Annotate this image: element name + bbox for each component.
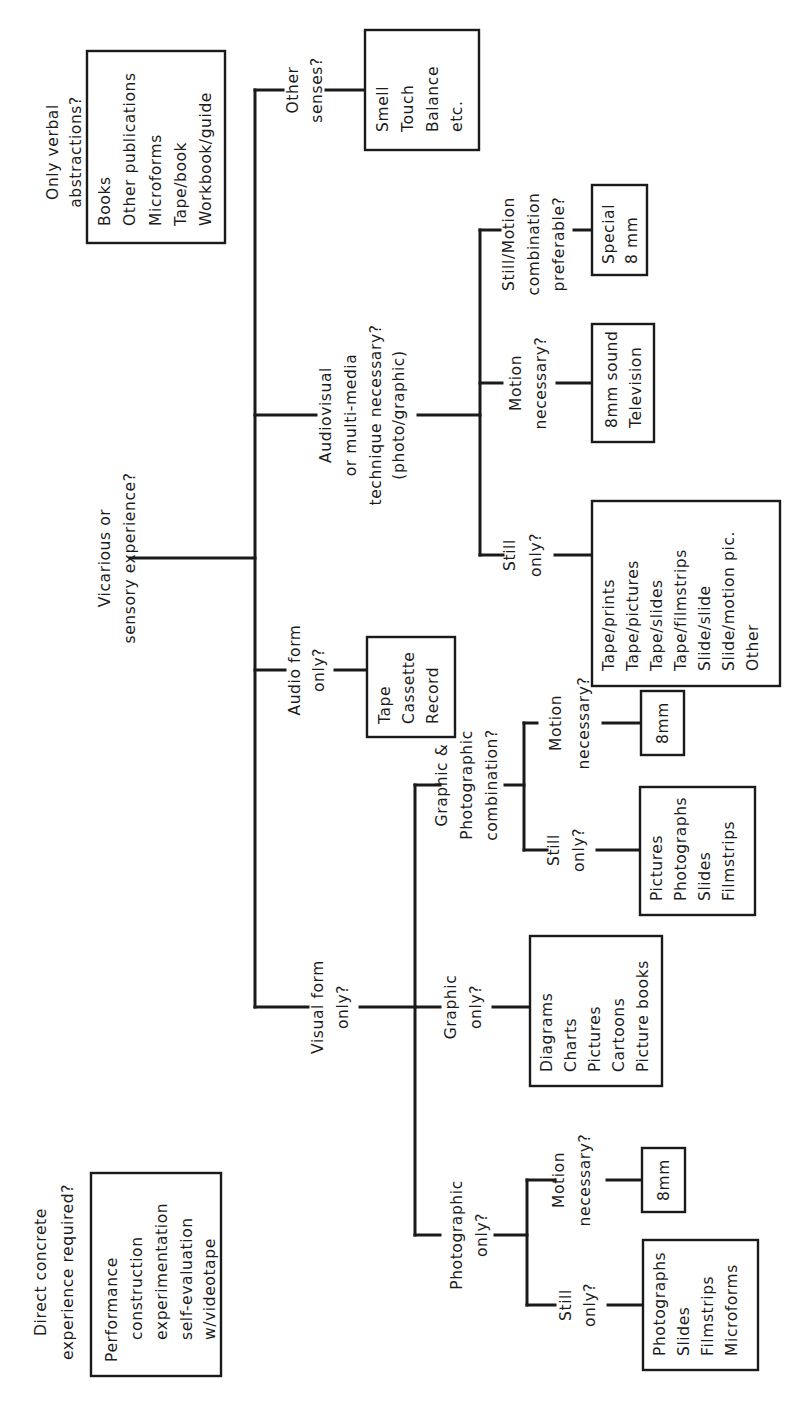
question-text-line: Still bbox=[545, 834, 563, 866]
question-text-line: abstractions? bbox=[67, 96, 85, 208]
box-item: Other bbox=[744, 624, 762, 671]
question-text-line: Photographic bbox=[448, 1180, 466, 1290]
question-text-line: Other bbox=[284, 66, 302, 113]
box-item: Cartoons bbox=[610, 998, 628, 1072]
box-item: etc. bbox=[448, 101, 466, 132]
question-text-line: Still/Motion bbox=[500, 197, 518, 291]
box-av-combo: Special 8 mm bbox=[592, 185, 647, 275]
question-text-line: Audiovisual bbox=[317, 367, 335, 463]
box-item: Smell bbox=[374, 86, 392, 132]
question-text-line: Visual form bbox=[309, 960, 327, 1054]
box-item: Performance bbox=[103, 1257, 121, 1362]
box-item: self-evaluation bbox=[178, 1217, 196, 1340]
question-text-line: (photo/graphic) bbox=[390, 350, 408, 479]
box-item: Cassette bbox=[400, 652, 418, 725]
box-item: Pictures bbox=[586, 1006, 604, 1072]
box-item: w/videotape bbox=[201, 1238, 219, 1340]
box-item: 8 mm bbox=[623, 217, 641, 264]
box-item: Photographs bbox=[651, 1252, 669, 1356]
question-text-line: necessary? bbox=[576, 1134, 594, 1227]
box-item: Books bbox=[96, 176, 114, 226]
question-photo-motion: Motion necessary? bbox=[550, 1134, 594, 1227]
question-text-line: combination? bbox=[483, 729, 501, 841]
question-text-line: only? bbox=[334, 985, 352, 1029]
question-text-line: Only verbal bbox=[44, 104, 62, 200]
box-item: Record bbox=[424, 667, 442, 724]
question-text-line: Photographic bbox=[458, 730, 476, 840]
box-item: Microforms bbox=[147, 134, 165, 226]
box-item: 8mm bbox=[655, 1159, 673, 1201]
box-item: experimentation bbox=[153, 1203, 171, 1340]
question-other-senses: Other senses? bbox=[284, 57, 326, 123]
question-text-line: Still bbox=[557, 1289, 575, 1321]
box-gp-still: Pictures Photographs Slides Filmstrips bbox=[640, 787, 755, 915]
question-direct-concrete: Direct concrete experience required? bbox=[32, 1184, 77, 1360]
question-text-line: senses? bbox=[308, 57, 326, 123]
box-item: Special bbox=[600, 204, 618, 264]
box-item: Touch bbox=[399, 85, 417, 134]
question-graphic-only: Graphic only? bbox=[442, 975, 485, 1040]
question-text-line: Audio form bbox=[286, 624, 304, 715]
box-item: Filmstrips bbox=[699, 1276, 717, 1356]
box-item: Slides bbox=[675, 1306, 693, 1356]
box-av-still: Tape/prints Tape/pictures Tape/slides Ta… bbox=[592, 501, 780, 686]
box-item: Slide/motion pic. bbox=[720, 531, 738, 671]
media-selection-flowchart: Direct concrete experience required? Per… bbox=[0, 0, 807, 1422]
box-item: Other publications bbox=[121, 72, 139, 226]
box-item: Slides bbox=[696, 851, 714, 901]
question-gp-motion: Motion necessary? bbox=[547, 677, 593, 770]
box-item: Filmstrips bbox=[720, 821, 738, 901]
box-photo-motion: 8mm bbox=[642, 1148, 685, 1212]
box-item: Diagrams bbox=[538, 993, 556, 1072]
box-item: Workbook/guide bbox=[197, 92, 215, 226]
question-text-line: experience required? bbox=[59, 1184, 77, 1360]
question-av-combo: Still/Motion combination preferable? bbox=[500, 193, 568, 296]
question-text-line: technique necessary? bbox=[367, 324, 385, 505]
question-gp-still: Still only? bbox=[545, 828, 588, 872]
box-direct-concrete: Performance construction experimentation… bbox=[91, 1173, 221, 1376]
question-graphic-photographic: Graphic & Photographic combination? bbox=[433, 729, 501, 841]
question-text-line: or multi-media bbox=[342, 354, 360, 477]
box-photo-still: Photographs Slides Filmstrips Microforms bbox=[643, 1240, 758, 1370]
box-verbal-abstractions: Books Other publications Microforms Tape… bbox=[87, 51, 225, 243]
box-audio-form: Tape Cassette Record bbox=[367, 637, 455, 737]
question-audio-form: Audio form only? bbox=[286, 624, 328, 715]
question-text-line: only? bbox=[581, 1283, 599, 1327]
box-gp-motion: 8mm bbox=[641, 691, 684, 755]
question-av-still: Still only? bbox=[501, 533, 545, 577]
question-text-line: Graphic & bbox=[433, 744, 451, 827]
question-text-line: Still bbox=[501, 539, 519, 571]
box-item: Tape/slides bbox=[648, 579, 666, 672]
question-text-line: necessary? bbox=[575, 677, 593, 770]
box-item: Charts bbox=[562, 1018, 580, 1072]
question-text-line: Motion bbox=[550, 1152, 568, 1208]
question-text-line: preferable? bbox=[550, 197, 568, 292]
question-text-line: Direct concrete bbox=[32, 1208, 50, 1336]
question-text-line: only? bbox=[467, 985, 485, 1029]
box-item: Tape/prints bbox=[600, 579, 618, 672]
box-item: Tape/filmstrips bbox=[672, 549, 690, 672]
question-text-line: necessary? bbox=[532, 337, 550, 430]
question-text-line: Graphic bbox=[442, 975, 460, 1040]
box-item: Balance bbox=[424, 66, 442, 132]
box-av-motion: 8mm sound Television bbox=[592, 324, 654, 442]
question-photographic-only: Photographic only? bbox=[448, 1180, 491, 1290]
box-item: Television bbox=[627, 347, 645, 429]
box-graphic-only: Diagrams Charts Pictures Cartoons Pictur… bbox=[530, 936, 662, 1086]
box-other-senses: Smell Touch Balance etc. bbox=[365, 30, 479, 150]
question-audiovisual: Audiovisual or multi-media technique nec… bbox=[317, 324, 408, 505]
box-item: 8mm sound bbox=[603, 331, 621, 428]
question-text-line: only? bbox=[527, 533, 545, 577]
question-av-motion: Motion necessary? bbox=[507, 337, 550, 430]
question-visual-form: Visual form only? bbox=[309, 960, 352, 1054]
box-item: Tape bbox=[376, 686, 394, 725]
question-text-line: Vicarious or bbox=[96, 509, 114, 608]
box-item: Pictures bbox=[648, 835, 666, 901]
box-item: Tape/pictures bbox=[624, 560, 642, 672]
box-item: 8mm bbox=[654, 702, 672, 744]
question-text-line: only? bbox=[570, 828, 588, 872]
question-text-line: only? bbox=[473, 1213, 491, 1257]
box-item: Tape/book bbox=[172, 142, 190, 227]
question-text-line: Motion bbox=[547, 695, 565, 751]
box-item: construction bbox=[128, 1236, 146, 1340]
